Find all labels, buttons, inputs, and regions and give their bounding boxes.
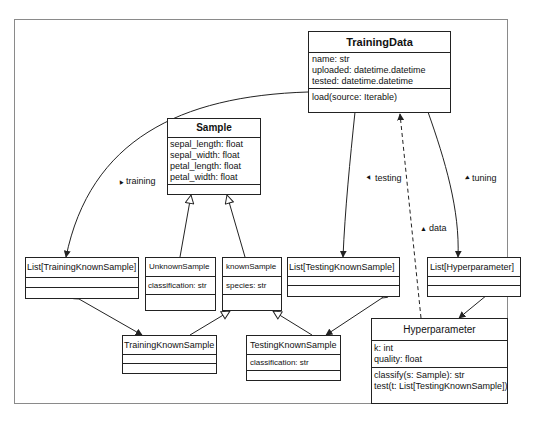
methods-section — [146, 295, 215, 303]
direction-triangle-icon: ▲ — [420, 225, 427, 232]
label-text: testing — [375, 173, 402, 183]
label-text: data — [429, 223, 447, 233]
attributes-section: k: int quality: float — [372, 341, 507, 368]
class-training-data: TrainingData name: str uploaded: datetim… — [308, 31, 451, 113]
method: classify(s: Sample): str — [374, 370, 505, 381]
attribute: quality: float — [374, 354, 505, 365]
attribute: k: int — [374, 343, 505, 354]
label-tuning: ▲tuning — [463, 173, 496, 183]
attributes-section — [123, 355, 216, 364]
methods-section: load(source: Iterable) — [309, 89, 450, 106]
attribute: uploaded: datetime.datetime — [312, 65, 447, 76]
methods-section — [428, 286, 520, 294]
direction-triangle-icon: ▲ — [462, 174, 472, 184]
attributes-section: classification: str — [146, 277, 215, 295]
label-training: ▲training — [117, 176, 155, 186]
attributes-section: sepal_length: float sepal_width: float p… — [168, 138, 260, 185]
methods-section — [26, 288, 138, 297]
direction-triangle-icon: ▲ — [116, 177, 126, 187]
class-title: TrainingKnownSample — [123, 336, 216, 355]
list-training-aggregation — [79, 299, 142, 335]
class-title: List[TestingKnownSample] — [288, 258, 399, 277]
attribute: classification: str — [148, 280, 213, 291]
class-training-known-sample: TrainingKnownSample — [122, 335, 217, 374]
class-list-testing-known-sample: List[TestingKnownSample] — [287, 257, 400, 297]
class-list-training-known-sample: List[TrainingKnownSample] — [25, 257, 139, 299]
methods-section — [223, 295, 281, 303]
label-testing: ▲testing — [366, 173, 401, 183]
attribute: sepal_length: float — [170, 139, 258, 150]
attributes-section — [428, 277, 520, 286]
label-text: tuning — [472, 173, 497, 183]
class-title: knownSample — [223, 258, 281, 277]
attributes-section: classification: str — [247, 355, 340, 371]
class-title: TestingKnownSample — [247, 336, 340, 355]
method: load(source: Iterable) — [312, 92, 447, 103]
attribute: name: str — [312, 54, 447, 65]
tuning-link — [428, 112, 458, 257]
trainingknown-inherits-known — [190, 311, 230, 335]
class-list-hyperparameter: List[Hyperparameter] — [427, 257, 521, 297]
methods-section — [288, 286, 399, 294]
class-title: TrainingData — [309, 32, 450, 53]
class-title: List[Hyperparameter] — [428, 258, 520, 277]
attribute: sepal_width: float — [170, 150, 258, 161]
list-hyper-composition — [459, 295, 487, 318]
known-inherits-sample — [227, 195, 245, 257]
direction-triangle-icon: ▲ — [365, 174, 375, 184]
attributes-section: name: str uploaded: datetime.datetime te… — [309, 53, 450, 89]
data-dependency — [400, 114, 421, 318]
attribute: classification: str — [250, 357, 337, 368]
attribute: tested: datetime.datetime — [312, 76, 447, 87]
class-title: UnknownSample — [146, 258, 215, 277]
class-sample: Sample sepal_length: float sepal_width: … — [167, 118, 261, 195]
class-known-sample: knownSample species: str — [222, 257, 282, 311]
attribute: species: str — [226, 280, 278, 291]
class-testing-known-sample: TestingKnownSample classification: str — [246, 335, 341, 381]
class-title: List[TrainingKnownSample] — [26, 258, 138, 278]
attribute: petal_width: float — [170, 172, 258, 183]
label-text: training — [126, 176, 156, 186]
label-data: ▲data — [420, 223, 446, 233]
class-title: Sample — [168, 119, 260, 138]
unknown-inherits-sample — [180, 195, 191, 257]
methods-section — [168, 185, 260, 195]
attributes-section — [26, 278, 138, 288]
testingknown-inherits-known — [273, 311, 312, 335]
class-hyperparameter: Hyperparameter k: int quality: float cla… — [371, 318, 508, 404]
method: test(t: List[TestingKnownSample]) — [374, 381, 505, 392]
attribute: petal_length: float — [170, 161, 258, 172]
methods-section: classify(s: Sample): str test(t: List[Te… — [372, 368, 507, 394]
attributes-section — [288, 277, 399, 286]
testing-link — [343, 112, 355, 257]
class-title: Hyperparameter — [372, 319, 507, 341]
class-unknown-sample: UnknownSample classification: str — [145, 257, 216, 311]
methods-section — [123, 364, 216, 372]
methods-section — [247, 371, 340, 378]
attributes-section: species: str — [223, 277, 281, 295]
